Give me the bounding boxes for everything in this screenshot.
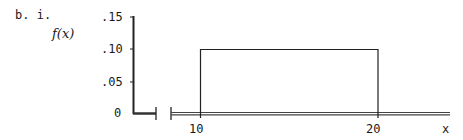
chart-plot-area — [0, 0, 463, 140]
uniform-density-curve — [201, 50, 379, 119]
